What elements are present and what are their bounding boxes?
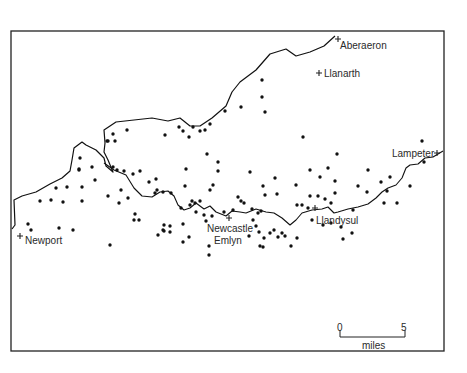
site-dot xyxy=(329,201,332,204)
site-dot xyxy=(194,210,197,213)
site-dot xyxy=(341,237,344,240)
town-llanarth: Llanarth xyxy=(316,68,360,79)
site-dot xyxy=(26,222,29,225)
site-dot xyxy=(251,218,254,221)
scale-start-label: 0 xyxy=(337,322,343,333)
town-label: Lampeter xyxy=(392,148,435,159)
site-dot xyxy=(335,152,338,155)
site-dot xyxy=(275,192,278,195)
site-dot xyxy=(77,167,80,170)
site-dot xyxy=(420,139,423,142)
site-dot xyxy=(223,109,226,112)
site-dot xyxy=(294,183,297,186)
site-dot xyxy=(71,228,74,231)
site-dot xyxy=(187,235,190,238)
site-dot xyxy=(154,177,157,180)
site-dot xyxy=(261,184,264,187)
site-dot xyxy=(280,231,283,234)
site-dot xyxy=(385,189,388,192)
site-dot xyxy=(177,125,180,128)
site-dot xyxy=(191,125,194,128)
site-dot xyxy=(365,190,368,193)
site-dot xyxy=(379,180,382,183)
site-dot xyxy=(153,191,156,194)
site-dot xyxy=(316,194,319,197)
site-dot xyxy=(162,229,165,232)
site-dot xyxy=(137,218,140,221)
town-newport: Newport xyxy=(17,233,62,246)
site-dot xyxy=(205,152,208,155)
site-dot xyxy=(366,168,369,171)
site-dot xyxy=(222,210,225,213)
site-dot xyxy=(108,243,111,246)
site-dot xyxy=(207,253,210,256)
site-dot xyxy=(326,166,329,169)
site-dot xyxy=(111,165,114,168)
site-dot xyxy=(211,183,214,186)
site-dot xyxy=(203,128,206,131)
site-dot xyxy=(115,168,118,171)
site-dot xyxy=(90,165,93,168)
site-dot xyxy=(231,208,234,211)
site-dot xyxy=(190,199,193,202)
site-dot xyxy=(208,188,211,191)
town-label: Newport xyxy=(25,235,62,246)
site-dot xyxy=(162,223,165,226)
site-dot xyxy=(318,175,321,178)
scale-unit-label: miles xyxy=(362,340,385,351)
site-dot xyxy=(183,184,186,187)
site-dot xyxy=(295,236,298,239)
site-dot xyxy=(188,203,191,206)
site-dot xyxy=(333,191,336,194)
site-dot xyxy=(65,185,68,188)
site-dot xyxy=(54,186,57,189)
site-dot xyxy=(198,129,201,132)
site-dot xyxy=(268,231,271,234)
site-dot xyxy=(161,190,164,193)
site-dot xyxy=(181,240,184,243)
site-dot xyxy=(306,206,309,209)
site-dot xyxy=(179,206,182,209)
site-dot xyxy=(262,236,265,239)
site-dot xyxy=(242,201,245,204)
site-dot xyxy=(239,105,242,108)
site-dot xyxy=(38,199,41,202)
site-dot xyxy=(117,201,120,204)
site-dot xyxy=(260,78,263,81)
site-dot xyxy=(111,132,114,135)
coastline xyxy=(12,36,335,229)
site-dot xyxy=(239,199,242,202)
map-frame xyxy=(11,31,444,351)
site-dot xyxy=(247,234,250,237)
site-dot xyxy=(263,193,266,196)
site-dot xyxy=(132,218,135,221)
site-dot xyxy=(259,209,262,212)
town-label: Llandysul xyxy=(316,215,358,226)
site-dot xyxy=(207,244,210,247)
site-dot xyxy=(169,191,172,194)
site-dot xyxy=(295,203,298,206)
town-cross-icon xyxy=(17,233,23,239)
site-dot xyxy=(147,180,150,183)
site-dot xyxy=(258,244,261,247)
site-dot xyxy=(300,203,303,206)
site-dot xyxy=(181,129,184,132)
site-dot xyxy=(382,201,385,204)
site-dot xyxy=(323,197,326,200)
site-dot xyxy=(256,211,259,214)
site-dot xyxy=(138,169,141,172)
site-dot xyxy=(257,230,260,233)
site-dot xyxy=(125,128,128,131)
site-dot xyxy=(236,195,239,198)
site-dot xyxy=(163,133,166,136)
site-dot xyxy=(308,168,311,171)
site-dot xyxy=(29,228,32,231)
town-aberaeron: Aberaeron xyxy=(335,36,387,51)
site-dot xyxy=(289,244,292,247)
site-dot xyxy=(388,175,391,178)
site-dot xyxy=(333,179,336,182)
site-dot xyxy=(260,95,263,98)
town-label: Aberaeron xyxy=(340,40,387,51)
river-teifi xyxy=(104,151,443,225)
site-dot xyxy=(106,194,109,197)
